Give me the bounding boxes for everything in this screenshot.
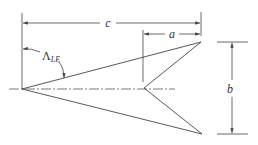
label-a: a (169, 27, 175, 41)
sweep-angle-annotation: ΛLE (23, 49, 64, 78)
dimension-a: a (144, 27, 200, 41)
label-b: b (227, 82, 233, 96)
wing-planform-diagram: c a ΛLE b (0, 0, 258, 145)
label-c: c (105, 16, 111, 30)
dimension-b: b (217, 42, 248, 134)
sweep-angle-label: ΛLE (42, 49, 60, 64)
